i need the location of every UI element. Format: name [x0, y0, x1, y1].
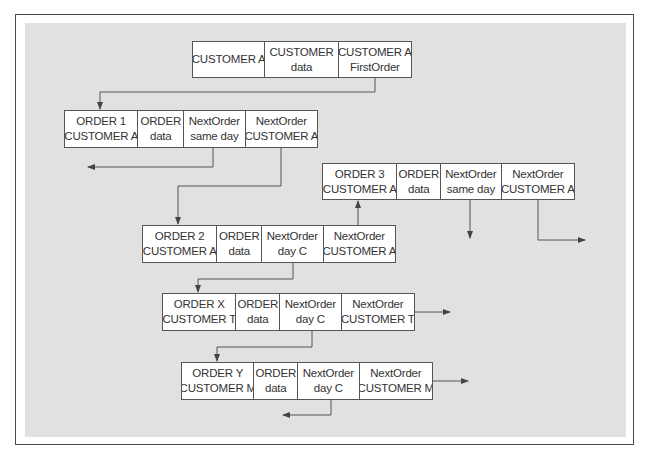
- order-data-field: ORDER data: [396, 164, 440, 199]
- field-line1: NextOrder: [285, 297, 336, 312]
- field-line1: NextOrder: [334, 229, 385, 244]
- field-line2: data: [408, 182, 430, 197]
- order-data-field: ORDER data: [216, 226, 261, 262]
- field-line2: data: [291, 60, 313, 75]
- field-line1: NextOrder: [445, 167, 496, 182]
- arrow-order1-same-day: [88, 148, 213, 167]
- orderY-record: ORDER Y CUSTOMER M ORDER data NextOrder …: [181, 362, 433, 400]
- field-line2: CUSTOMER M: [359, 381, 432, 396]
- field-line2: CUSTOMER A: [245, 129, 317, 144]
- order3-record: ORDER 3 CUSTOMER A ORDER data NextOrder …: [322, 163, 575, 200]
- field-line2: data: [247, 312, 269, 327]
- arrow-orderY-day-c: [283, 400, 331, 415]
- field-line2: data: [150, 129, 172, 144]
- field-line1: ORDER Y: [192, 366, 243, 381]
- next-order-same-day-pointer: NextOrder same day: [440, 164, 501, 199]
- field-line1: CUSTOMER: [270, 45, 334, 60]
- next-order-customer-pointer: NextOrder CUSTOMER A: [323, 226, 395, 262]
- customer-first-order-pointer: CUSTOMER A FirstOrder: [338, 42, 411, 77]
- arrow-order3-next-customer: [538, 200, 585, 240]
- next-order-customer-pointer: NextOrder CUSTOMER T: [341, 294, 414, 330]
- field-line2: day C: [278, 244, 307, 259]
- field-line2: CUSTOMER A: [323, 182, 396, 197]
- field-line2: CUSTOMER A: [143, 244, 216, 259]
- field-line1: ORDER 2: [155, 229, 205, 244]
- arrow-order1-next-customer: [178, 148, 281, 224]
- field-line2: CUSTOMER M: [182, 381, 253, 396]
- field-line2: data: [228, 244, 250, 259]
- customer-data-field: CUSTOMER data: [264, 42, 337, 77]
- orderX-record: ORDER X CUSTOMER T ORDER data NextOrder …: [162, 293, 415, 331]
- order-id-field: ORDER 2 CUSTOMER A: [143, 226, 216, 262]
- next-order-same-day-pointer: NextOrder same day: [183, 111, 245, 147]
- field-line1: NextOrder: [267, 229, 318, 244]
- next-order-day-pointer: NextOrder day C: [279, 294, 341, 330]
- arrow-first-order: [100, 78, 375, 109]
- next-order-customer-pointer: NextOrder CUSTOMER A: [245, 111, 317, 147]
- customer-id-field: CUSTOMER A: [193, 42, 264, 77]
- order-id-field: ORDER X CUSTOMER T: [163, 294, 235, 330]
- order1-record: ORDER 1 CUSTOMER A ORDER data NextOrder …: [64, 110, 318, 148]
- order-data-field: ORDER data: [235, 294, 279, 330]
- field-line1: NextOrder: [189, 114, 240, 129]
- field-line2: data: [265, 381, 287, 396]
- field-line2: same day: [447, 182, 495, 197]
- field-line2: day C: [296, 312, 325, 327]
- next-order-customer-pointer: NextOrder CUSTOMER M: [359, 363, 432, 399]
- field-line2: CUSTOMER A: [501, 182, 574, 197]
- next-order-day-pointer: NextOrder day C: [261, 226, 323, 262]
- field-line1: CUSTOMER A: [338, 45, 411, 60]
- field-line2: CUSTOMER A: [323, 244, 395, 259]
- field-line1: NextOrder: [303, 366, 354, 381]
- field-line1: ORDER 1: [76, 114, 126, 129]
- order-id-field: ORDER Y CUSTOMER M: [182, 363, 253, 399]
- field-line2: CUSTOMER T: [163, 312, 235, 327]
- arrow-orderX-day-c: [217, 331, 312, 361]
- field-line1: ORDER: [255, 366, 296, 381]
- field-line2: same day: [190, 129, 238, 144]
- field-line1: ORDER: [219, 229, 260, 244]
- order-data-field: ORDER data: [253, 363, 297, 399]
- field-line1: ORDER X: [174, 297, 225, 312]
- field-line1: ORDER: [237, 297, 278, 312]
- order-id-field: ORDER 3 CUSTOMER A: [323, 164, 396, 199]
- customer-record: CUSTOMER A CUSTOMER data CUSTOMER A Firs…: [192, 41, 412, 78]
- arrow-order2-day-c: [198, 263, 293, 292]
- order2-record: ORDER 2 CUSTOMER A ORDER data NextOrder …: [142, 225, 396, 263]
- order-id-field: ORDER 1 CUSTOMER A: [65, 111, 137, 147]
- field-line1: NextOrder: [352, 297, 403, 312]
- field-line2: CUSTOMER T: [341, 312, 414, 327]
- field-line1: NextOrder: [370, 366, 421, 381]
- order-data-field: ORDER data: [137, 111, 183, 147]
- field-line1: NextOrder: [512, 167, 563, 182]
- field-line1: NextOrder: [256, 114, 307, 129]
- field-line1: ORDER 3: [335, 167, 385, 182]
- field-line1: CUSTOMER A: [193, 52, 264, 67]
- field-line2: FirstOrder: [350, 60, 400, 75]
- field-line1: ORDER: [140, 114, 181, 129]
- field-line2: day C: [314, 381, 343, 396]
- next-order-day-pointer: NextOrder day C: [297, 363, 359, 399]
- next-order-customer-pointer: NextOrder CUSTOMER A: [501, 164, 574, 199]
- field-line1: ORDER: [398, 167, 439, 182]
- field-line2: CUSTOMER A: [65, 129, 137, 144]
